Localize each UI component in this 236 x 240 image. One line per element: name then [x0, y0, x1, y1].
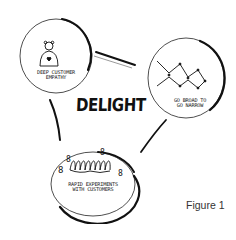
center-title: DELIGHT — [76, 94, 146, 116]
empathy-label: DEEP CUSTOMER EMPATHY — [28, 70, 84, 81]
branching-network-icon — [157, 61, 206, 89]
broad-narrow-label-line2: GO NARROW — [165, 103, 215, 108]
svg-text:8: 8 — [58, 165, 63, 175]
figure-caption: Figure 1 — [186, 199, 225, 211]
person-with-heart-icon — [40, 41, 58, 66]
experiments-label-line2: WITH CUSTOMERS — [58, 187, 128, 192]
connector-experiments-to-empathy — [50, 100, 60, 140]
connector-broad-to-experiments — [141, 120, 166, 152]
coil-with-people-icon: 8 8 8 8 — [58, 148, 123, 178]
svg-text:8: 8 — [66, 155, 71, 164]
broad-narrow-label: GO BROAD TO GO NARROW — [165, 98, 215, 109]
svg-text:8: 8 — [118, 169, 123, 178]
empathy-label-line2: EMPATHY — [28, 75, 84, 80]
connector-empathy-to-broad — [94, 52, 135, 68]
experiments-label: RAPID EXPERIMENTS WITH CUSTOMERS — [58, 182, 128, 193]
svg-text:8: 8 — [100, 148, 105, 157]
